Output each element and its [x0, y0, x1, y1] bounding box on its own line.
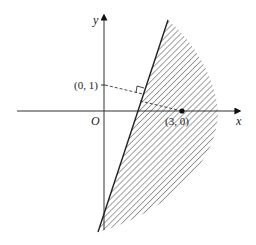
point-3-0 [179, 108, 184, 113]
right-angle-marker [136, 86, 144, 93]
y-axis-label: y [92, 13, 99, 27]
point-label-3-0: (3, 0) [165, 115, 189, 128]
point-label-0-1: (0, 1) [74, 79, 98, 92]
x-axis-label: x [235, 114, 242, 128]
diagram-canvas: y x O (0, 1) (3, 0) [0, 0, 256, 245]
origin-label: O [91, 114, 100, 128]
